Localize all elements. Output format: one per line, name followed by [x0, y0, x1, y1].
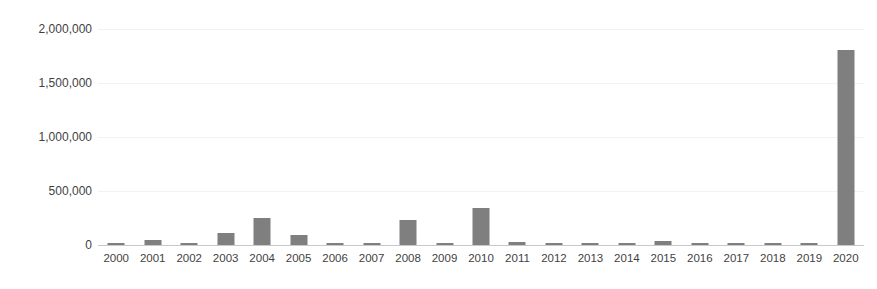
x-axis-tick-label: 2000: [103, 252, 129, 264]
bar-slot: [244, 29, 280, 245]
bar[interactable]: [472, 208, 489, 245]
bars-layer: [98, 29, 864, 245]
x-axis-tick-label: 2018: [760, 252, 786, 264]
bar[interactable]: [327, 243, 344, 245]
x-axis-baseline: [98, 245, 864, 246]
chart-title-clipped: ········································…: [0, 0, 877, 5]
x-axis-tick-label: 2013: [578, 252, 604, 264]
bar-slot: [463, 29, 499, 245]
x-axis-tick-label: 2004: [249, 252, 275, 264]
bar[interactable]: [108, 243, 125, 245]
bar-slot: [499, 29, 535, 245]
y-axis-tick-label: 1,500,000: [6, 76, 92, 90]
x-axis-tick-label: 2001: [140, 252, 166, 264]
bar-slot: [207, 29, 243, 245]
bar-slot: [171, 29, 207, 245]
bar-slot: [682, 29, 718, 245]
bar[interactable]: [400, 220, 417, 245]
x-axis-tick-label: 2009: [432, 252, 458, 264]
x-axis-tick-label: 2017: [724, 252, 750, 264]
x-axis-tick-labels: 2000200120022003200420052006200720082009…: [98, 252, 864, 272]
bar[interactable]: [655, 241, 672, 245]
bar-slot: [390, 29, 426, 245]
bar-slot: [828, 29, 864, 245]
bar[interactable]: [764, 243, 781, 245]
y-axis-tick-labels: 0500,0001,000,0001,500,0002,000,000: [0, 0, 92, 289]
bar-chart-figure: ········································…: [0, 0, 877, 289]
bar[interactable]: [728, 243, 745, 245]
x-axis-tick-label: 2010: [468, 252, 494, 264]
x-axis-tick-label: 2012: [541, 252, 567, 264]
bar-slot: [98, 29, 134, 245]
bar[interactable]: [691, 243, 708, 245]
y-axis-tick-label: 0: [6, 238, 92, 252]
bar[interactable]: [509, 242, 526, 245]
bar[interactable]: [217, 233, 234, 245]
bar[interactable]: [290, 235, 307, 245]
bar-slot: [572, 29, 608, 245]
bar[interactable]: [254, 218, 271, 245]
x-axis-tick-label: 2003: [213, 252, 239, 264]
x-axis-tick-label: 2006: [322, 252, 348, 264]
bar[interactable]: [144, 240, 161, 245]
x-axis-tick-label: 2020: [833, 252, 859, 264]
bar-slot: [755, 29, 791, 245]
bar[interactable]: [181, 243, 198, 245]
x-axis-tick-label: 2019: [796, 252, 822, 264]
bar[interactable]: [801, 243, 818, 245]
bar[interactable]: [582, 243, 599, 245]
y-axis-tick-label: 1,000,000: [6, 130, 92, 144]
y-axis-tick-label: 2,000,000: [6, 22, 92, 36]
bar-slot: [609, 29, 645, 245]
bar-slot: [645, 29, 681, 245]
bar-slot: [791, 29, 827, 245]
bar-slot: [718, 29, 754, 245]
x-axis-tick-label: 2008: [395, 252, 421, 264]
bar-slot: [280, 29, 316, 245]
x-axis-tick-label: 2014: [614, 252, 640, 264]
y-axis-tick-label: 500,000: [6, 184, 92, 198]
x-axis-tick-label: 2016: [687, 252, 713, 264]
bar[interactable]: [837, 50, 854, 245]
bar[interactable]: [363, 243, 380, 245]
bar-slot: [134, 29, 170, 245]
x-axis-tick-label: 2007: [359, 252, 385, 264]
x-axis-tick-label: 2002: [176, 252, 202, 264]
bar-slot: [536, 29, 572, 245]
bar[interactable]: [545, 243, 562, 245]
bar[interactable]: [618, 243, 635, 245]
bar-slot: [353, 29, 389, 245]
x-axis-tick-label: 2005: [286, 252, 312, 264]
x-axis-tick-label: 2015: [651, 252, 677, 264]
bar-slot: [317, 29, 353, 245]
bar[interactable]: [436, 243, 453, 245]
x-axis-tick-label: 2011: [505, 252, 530, 264]
bar-slot: [426, 29, 462, 245]
